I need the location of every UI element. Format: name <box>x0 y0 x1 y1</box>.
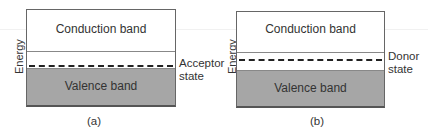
acceptor-level-dashed-line <box>29 65 173 67</box>
acceptor-state-line1: Acceptor <box>179 57 224 70</box>
acceptor-state-line2: state <box>179 70 224 83</box>
donor-state-label: Donor state <box>388 50 419 76</box>
caption-a: (a) <box>87 115 101 127</box>
caption-b: (b) <box>310 115 324 127</box>
valence-band-b: Valence band <box>237 70 384 106</box>
band-diagram-a: Conduction band Valence band <box>26 9 176 107</box>
donor-state-line2: state <box>388 63 419 76</box>
donor-state-line1: Donor <box>388 50 419 63</box>
band-diagram-b: Conduction band Valence band <box>236 11 385 108</box>
conduction-band-label-a: Conduction band <box>27 22 175 36</box>
valence-band-label-a: Valence band <box>27 79 175 93</box>
valence-band-a: Valence band <box>27 68 175 105</box>
conduction-band-edge-b <box>237 52 384 53</box>
conduction-band-label-b: Conduction band <box>237 22 384 36</box>
energy-axis-label-a: Energy <box>13 39 25 74</box>
conduction-band-edge-a <box>27 51 175 52</box>
valence-band-label-b: Valence band <box>237 81 384 95</box>
donor-level-dashed-line <box>239 59 382 61</box>
acceptor-state-label: Acceptor state <box>179 57 224 83</box>
